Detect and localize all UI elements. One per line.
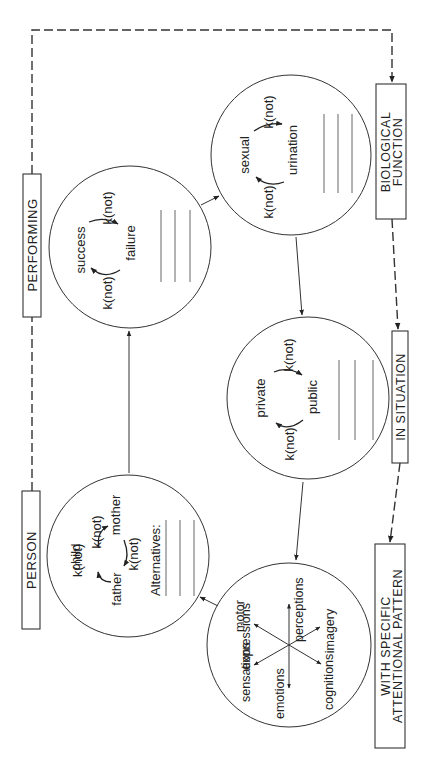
arrow-urination-to-sexual bbox=[256, 177, 284, 184]
circle-person: k(not) child k(not) mother k(not) father… bbox=[47, 475, 209, 637]
box-biological-function: BIOLOGICAL FUNCTION bbox=[376, 84, 406, 219]
node-father: father bbox=[109, 572, 124, 606]
arrow-biological-to-situation bbox=[296, 237, 302, 315]
biological-k-not-2: k(not) bbox=[261, 185, 276, 218]
person-k-not-3: k(not) bbox=[126, 537, 141, 570]
dashed-biological-situation bbox=[392, 219, 398, 329]
arrow-attentional-to-person bbox=[200, 597, 218, 606]
node-failure: failure bbox=[123, 225, 138, 260]
node-private: private bbox=[253, 378, 268, 417]
circle-performing: success failure k(not) k(not) bbox=[49, 166, 211, 328]
label-perceptions: perceptions bbox=[292, 577, 306, 642]
box-attentional-label-2: ATTENTIONAL PATTERN bbox=[391, 569, 405, 723]
label-emotions: emotions bbox=[273, 668, 287, 719]
box-performing-label: PERFORMING bbox=[25, 198, 40, 291]
box-situation-label: IN SITUATION bbox=[394, 353, 408, 441]
dashed-outer-flow bbox=[32, 30, 400, 542]
box-in-situation: IN SITUATION bbox=[392, 331, 408, 463]
box-biological-label-2: FUNCTION bbox=[391, 118, 405, 187]
ray-sensations bbox=[254, 645, 289, 665]
ray-cognitions bbox=[289, 645, 321, 664]
alternatives-label: Alternatives: bbox=[148, 524, 163, 596]
circle-attentional: motor expressions perceptions imagery se… bbox=[207, 563, 371, 727]
label-sensations: sensations bbox=[239, 642, 253, 702]
node-urination: urination bbox=[285, 125, 300, 175]
box-attentional-pattern: WITH SPECIFIC ATTENTIONAL PATTERN bbox=[375, 544, 405, 748]
node-sexual: sexual bbox=[237, 136, 252, 174]
box-person: PERSON bbox=[22, 491, 40, 629]
node-mother: mother bbox=[108, 494, 123, 535]
node-child: child bbox=[68, 544, 83, 571]
dashed-situation-attentional bbox=[390, 463, 400, 542]
performing-k-not-2: k(not) bbox=[100, 276, 115, 309]
box-performing: PERFORMING bbox=[23, 174, 41, 317]
node-public: public bbox=[305, 380, 320, 414]
label-imagery: imagery bbox=[323, 608, 337, 653]
circle-situation: private public k(not) k(not) bbox=[227, 317, 389, 479]
arrow-performing-to-biological bbox=[201, 196, 219, 205]
arrow-public-to-private bbox=[276, 420, 303, 427]
situation-k-not-2: k(not) bbox=[282, 427, 297, 460]
arrow-failure-to-success bbox=[91, 268, 120, 275]
box-person-label: PERSON bbox=[24, 531, 39, 589]
node-success: success bbox=[73, 226, 88, 273]
label-cognitions: cognitions bbox=[322, 654, 336, 710]
diagram-canvas: PERSON PERFORMING BIOLOGICAL FUNCTION IN… bbox=[0, 0, 434, 761]
diagram-svg: PERSON PERFORMING BIOLOGICAL FUNCTION IN… bbox=[0, 0, 434, 761]
ray-motor-expressions bbox=[254, 624, 289, 645]
circle-biological: sexual urination k(not) k(not) bbox=[211, 75, 371, 235]
situation-k-not-1: k(not) bbox=[281, 338, 296, 371]
arrow-situation-to-attentional bbox=[296, 482, 303, 560]
